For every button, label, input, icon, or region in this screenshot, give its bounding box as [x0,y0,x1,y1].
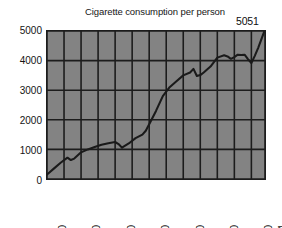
y-axis-tick-label: 4000 [2,55,42,66]
plot-area [46,30,266,180]
data-series-line [47,31,265,175]
x-axis-tick-label: 1920 [91,225,102,228]
y-axis-tick-label: 5000 [2,25,42,36]
chart-title: Cigarette consumption per person [60,6,250,17]
x-axis-tick-label: 1974 [277,225,282,228]
y-axis-tick-label: 2000 [2,115,42,126]
horizontal-gridlines [47,31,265,179]
chart-plot-svg [47,31,265,179]
x-axis-tick-label: 1950 [195,225,206,228]
x-axis-tick-label: 1910 [57,225,68,228]
chart-container: Cigarette consumption per person 5051 50… [0,0,282,228]
x-axis-tick-labels: 19101920193019401950196019701974 [0,183,282,228]
y-axis-tick-label: 1000 [2,145,42,156]
y-axis-tick-label: 3000 [2,85,42,96]
vertical-gridlines [47,31,265,179]
x-axis-tick-label: 1960 [229,225,240,228]
x-axis-tick-label: 1940 [160,225,171,228]
peak-value-annotation: 5051 [236,15,259,27]
x-axis-tick-label: 1930 [126,225,137,228]
x-axis-tick-label: 1970 [263,225,274,228]
